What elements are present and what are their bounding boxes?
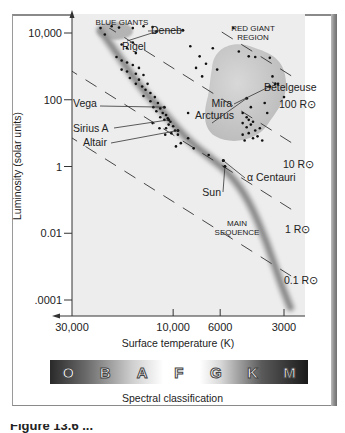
star-point — [135, 72, 138, 75]
y-tick-label: 1 — [56, 161, 62, 173]
star-point — [195, 67, 198, 70]
spectral-class-a: A — [127, 364, 157, 381]
star-point — [165, 127, 168, 130]
star-point — [247, 132, 250, 135]
star-point — [165, 114, 168, 117]
star-point — [135, 83, 138, 86]
star-point — [241, 112, 244, 115]
region-label: BLUE GIANTS — [96, 18, 149, 27]
star-point — [247, 55, 250, 58]
star-point — [263, 102, 266, 105]
star-point — [172, 125, 175, 128]
star-label: Rigel — [122, 40, 146, 52]
radius-label: 0.1 R⊙ — [284, 274, 318, 286]
star-point — [161, 112, 164, 115]
star-point — [155, 110, 158, 113]
star-point — [126, 61, 129, 64]
radius-label: 10 R⊙ — [283, 158, 314, 170]
star-point — [159, 107, 162, 110]
star-label: Deneb — [151, 24, 182, 36]
star-point — [192, 147, 195, 150]
star-point — [266, 112, 269, 115]
star-point — [149, 92, 152, 95]
star-point — [154, 96, 157, 99]
star-point — [158, 127, 161, 130]
y-tick-label: 10,000 — [28, 27, 62, 39]
star-point — [254, 56, 257, 59]
spectral-class-m: M — [274, 364, 304, 381]
spectral-class-k: K — [238, 364, 268, 381]
star-label: α Centauri — [247, 171, 296, 183]
star-point — [177, 133, 180, 136]
star-point — [261, 139, 264, 142]
star-point — [247, 119, 250, 122]
star-point — [250, 106, 253, 109]
y-tick-label: 0.01 — [41, 227, 62, 239]
star-label: Vega — [73, 97, 97, 109]
star-point — [120, 68, 123, 71]
star-point — [104, 33, 107, 36]
region-label: RED GIANT — [231, 24, 275, 33]
star-point — [159, 116, 162, 119]
star-point — [250, 123, 253, 126]
spectral-class-f: F — [164, 364, 194, 381]
star-point — [256, 135, 259, 138]
star-point — [138, 67, 141, 70]
star-label: Arcturus — [195, 109, 234, 121]
spectral-class-bar: OBAFGKM — [50, 360, 308, 384]
star-point — [126, 70, 129, 73]
star-point — [142, 74, 145, 77]
star-point — [241, 122, 244, 125]
y-axis-title: Luminosity (solar units) — [11, 112, 23, 220]
star-point — [131, 27, 134, 30]
star-point — [157, 102, 160, 105]
region-label: SEQUENCE — [215, 228, 260, 237]
star-point — [149, 100, 152, 103]
star-point — [138, 78, 141, 81]
star-point — [254, 129, 257, 132]
star-point — [146, 83, 149, 86]
region-label: REGION — [237, 33, 269, 42]
x-tick-label: 10,000 — [156, 321, 190, 333]
star-point — [164, 133, 167, 136]
spectral-classification-title: Spectral classification — [0, 392, 345, 404]
y-tick-label: 100 — [44, 94, 62, 106]
y-tick-label: .0001 — [34, 294, 62, 306]
star-point — [216, 68, 219, 71]
region-label: MAIN — [227, 219, 247, 228]
star-point — [241, 133, 244, 136]
star-point — [135, 52, 138, 55]
star-point — [99, 27, 102, 30]
star-point — [115, 56, 118, 59]
star-label: Altair — [83, 136, 107, 148]
star-point — [129, 77, 132, 80]
star-point — [198, 55, 201, 58]
star-point — [180, 142, 183, 145]
x-tick-label: 30,000 — [55, 321, 89, 333]
star-label: Sun — [202, 186, 221, 198]
star-point — [259, 127, 262, 130]
star-point — [144, 88, 147, 91]
star-point — [175, 145, 178, 148]
star-point — [212, 47, 215, 50]
radius-label: 100 R⊙ — [279, 98, 316, 110]
star-point — [245, 126, 248, 129]
star-label: Mira — [212, 97, 233, 109]
spectral-class-o: O — [53, 364, 83, 381]
star-point — [142, 95, 145, 98]
star-point — [131, 64, 134, 67]
star-point — [167, 123, 170, 126]
star-point — [141, 85, 144, 88]
star-point — [120, 59, 123, 62]
radius-label: 1 R⊙ — [285, 223, 310, 235]
star-point — [189, 45, 192, 48]
star-point — [207, 154, 210, 157]
star-point — [271, 75, 274, 78]
star-label: Sirius A — [73, 122, 109, 134]
spectral-class-b: B — [90, 364, 120, 381]
star-point — [252, 120, 255, 123]
x-axis-title: Surface temperature (K) — [122, 337, 235, 349]
x-tick-label: 3000 — [272, 321, 296, 333]
star-point — [252, 137, 255, 140]
star-point — [201, 75, 204, 78]
